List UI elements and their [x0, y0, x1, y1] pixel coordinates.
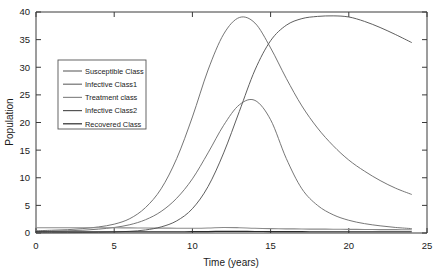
- x-tick-label: 15: [265, 240, 276, 251]
- x-tick-label: 10: [187, 240, 198, 251]
- x-tick-label: 25: [422, 240, 433, 251]
- figure-canvas: 0510152025303540 0510152025 Time (years)…: [0, 0, 445, 278]
- y-tick-label: 40: [19, 6, 30, 17]
- legend-label: Treatment class: [85, 93, 138, 102]
- legend-label: Infective Class1: [85, 80, 137, 89]
- y-tick-label: 30: [19, 62, 30, 73]
- x-axis-title: Time (years): [203, 257, 259, 268]
- x-tick-label: 20: [344, 240, 355, 251]
- y-tick-label: 15: [19, 145, 30, 156]
- y-tick-label: 10: [19, 172, 30, 183]
- chart-legend[interactable]: Susceptible ClassInfective Class1Treatme…: [58, 60, 146, 129]
- y-tick-label: 20: [19, 117, 30, 128]
- y-tick-label: 25: [19, 89, 30, 100]
- chart-plot: 0510152025303540 0510152025 Time (years)…: [0, 0, 445, 278]
- y-tick-label: 35: [19, 34, 30, 45]
- y-axis-title: Population: [4, 98, 15, 145]
- y-tick-label: 0: [25, 227, 30, 238]
- x-tick-label: 0: [33, 240, 38, 251]
- legend-label: Susceptible Class: [85, 67, 144, 76]
- x-tick-label: 5: [112, 240, 117, 251]
- y-tick-label: 5: [25, 200, 30, 211]
- legend-label: Infective Class2: [85, 106, 137, 115]
- x-axis-ticks: 0510152025: [33, 12, 432, 251]
- legend-label: Recovered Class: [85, 120, 142, 129]
